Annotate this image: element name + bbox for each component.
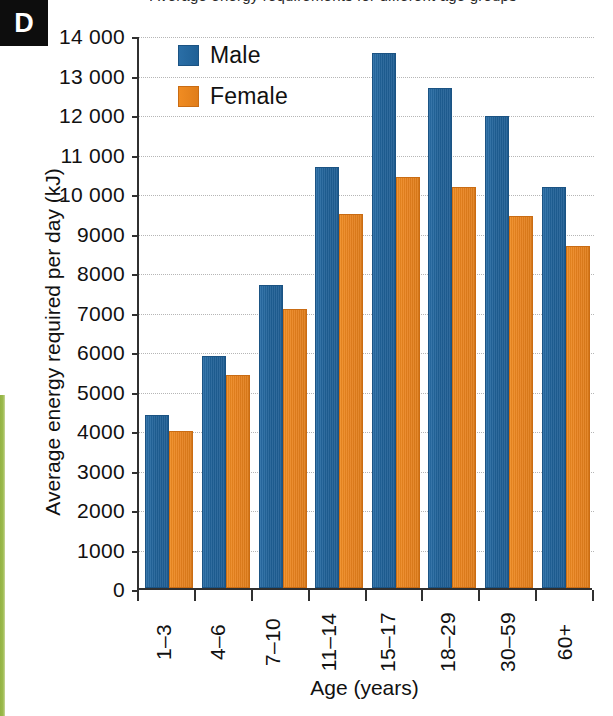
x-axis-ticklabel: 11–14 [300,604,358,670]
square-swatch-icon [178,86,199,107]
bar-group [311,37,368,588]
panel-letter-text: D [14,8,34,39]
y-axis-tick [132,551,139,553]
bar-groups [141,37,594,588]
y-axis-ticklabel: 8000 [77,262,125,286]
x-axis-tick [251,590,253,601]
bar-female [396,177,420,588]
x-axis-ticklabels: 1–34–67–1011–1415–1718–2930–5960+ [137,604,592,670]
plot-area [137,37,592,590]
bar-group [424,37,481,588]
clipped-caption-text: Average energy requirements for differen… [150,0,613,4]
y-axis-tick [132,156,139,158]
bar-group [141,37,198,588]
y-axis-ticklabel: 9000 [77,223,125,247]
bar-group [198,37,255,588]
bar-group [481,37,538,588]
bar-group [537,37,594,588]
bar-female [339,214,363,588]
x-axis-ticklabel: 1–3 [137,604,191,670]
x-axis-ticklabel: 18–29 [418,604,478,670]
chart-legend: MaleFemale [178,42,288,110]
x-axis-tick [308,590,310,601]
x-axis-tick [194,590,196,601]
y-axis-ticklabel: 11 000 [61,144,125,168]
bar-female [452,187,476,588]
x-axis-ticklabel: 4–6 [191,604,245,670]
legend-item-male: Male [178,42,288,69]
legend-item-label: Female [210,83,288,110]
bar-male [428,88,452,588]
x-axis-ticklabel-text: 18–29 [436,612,460,672]
y-axis-tick [132,393,139,395]
bar-female [566,246,590,588]
page-edge-strip [0,395,5,716]
bar-female [226,375,250,588]
clipped-caption: Average energy requirements for differen… [150,0,613,7]
y-axis-ticklabel: 1000 [77,539,125,563]
x-axis-ticklabel-text: 4–6 [206,624,230,660]
y-axis-tick [132,195,139,197]
panel-letter-badge: D [0,0,48,46]
y-axis-tick [132,432,139,434]
x-axis-ticklabel-text: 1–3 [152,624,176,660]
y-axis-ticklabel: 2000 [77,499,125,523]
y-axis-ticklabel: 5000 [77,381,125,405]
legend-item-female: Female [178,83,288,110]
bar-male [202,356,226,588]
y-axis-ticklabel: 3000 [77,460,125,484]
y-axis-ticklabel: 14 000 [59,25,125,49]
x-axis-ticklabel: 7–10 [245,604,299,670]
bar-male [315,167,339,588]
y-axis-ticklabel: 12 000 [59,104,125,128]
bar-male [259,285,283,588]
x-axis-tick [365,590,367,601]
bar-group [254,37,311,588]
y-axis-tick [132,77,139,79]
y-axis-ticklabel: 4000 [77,420,125,444]
x-axis-ticklabel: 15–17 [358,604,418,670]
x-axis-ticks [137,590,592,602]
x-axis-ticklabel-text: 60+ [553,624,577,661]
y-axis-ticklabel: 7000 [77,302,125,326]
bar-male [372,53,396,588]
bar-male [542,187,566,588]
bar-male [485,116,509,588]
y-axis-tick [132,116,139,118]
x-axis-tick [421,590,423,601]
x-axis-ticklabel-text: 15–17 [376,612,400,672]
x-axis-tick [137,590,139,601]
square-swatch-icon [178,45,199,66]
y-axis-ticklabel: 0 [113,578,125,602]
bar-chart: Average energy required per day (kJ) 14 … [0,0,613,716]
x-axis-title: Age (years) [137,676,592,700]
x-axis-ticklabel: 30–59 [478,604,538,670]
x-axis-tick [535,590,537,601]
bar-female [169,431,193,588]
y-axis-ticklabel: 6000 [77,341,125,365]
legend-item-label: Male [210,42,261,69]
bar-group [368,37,425,588]
x-axis-tick [478,590,480,601]
x-axis-ticklabel-text: 30–59 [496,612,520,672]
y-axis-tick [132,472,139,474]
y-axis-tick [132,353,139,355]
x-axis-ticklabel-text: 7–10 [261,618,285,666]
bar-female [283,309,307,588]
y-axis-tick [132,314,139,316]
x-axis-ticklabel-text: 11–14 [317,613,341,671]
x-axis-tick [592,590,594,601]
bar-female [509,216,533,588]
y-axis-tick [132,511,139,513]
y-axis-tick [132,235,139,237]
y-axis-ticklabel: 10 000 [59,183,125,207]
y-axis-tick [132,37,139,39]
y-axis-ticklabel: 13 000 [59,65,125,89]
bar-male [145,415,169,588]
y-axis-ticklabels: 14 00013 00012 00011 00010 0009000800070… [0,0,137,716]
y-axis-tick [132,274,139,276]
x-axis-ticklabel: 60+ [538,604,592,670]
